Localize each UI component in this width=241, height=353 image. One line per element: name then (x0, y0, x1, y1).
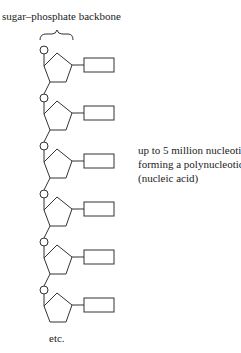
base-rectangle-icon (84, 202, 114, 216)
sugar-pentagon-icon (44, 245, 72, 274)
phosphate-circle-icon (40, 286, 48, 294)
base-rectangle-icon (84, 298, 114, 312)
base-rectangle-icon (84, 154, 114, 168)
sugar-pentagon-icon (44, 53, 72, 82)
sugar-pentagon-icon (44, 101, 72, 130)
sugar-pentagon-icon (44, 293, 72, 322)
phosphate-circle-icon (40, 94, 48, 102)
phosphate-circle-icon (40, 190, 48, 198)
phosphate-circle-icon (40, 46, 48, 54)
sugar-pentagon-icon (44, 149, 72, 178)
phosphate-circle-icon (40, 142, 48, 150)
backbone-link-line (44, 178, 50, 190)
backbone-link-line (44, 226, 50, 238)
sugar-pentagon-icon (44, 197, 72, 226)
polynucleotide-diagram (0, 0, 241, 353)
base-rectangle-icon (84, 106, 114, 120)
base-rectangle-icon (84, 250, 114, 264)
backbone-link-line (44, 130, 50, 142)
brace-icon (40, 30, 73, 40)
base-rectangle-icon (84, 58, 114, 72)
backbone-link-line (44, 274, 50, 286)
backbone-link-line (44, 82, 50, 94)
phosphate-circle-icon (40, 238, 48, 246)
